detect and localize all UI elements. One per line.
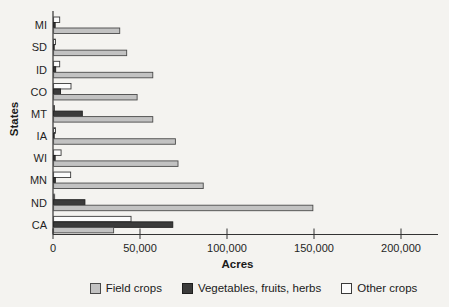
bar-vegetables-fruits-herbs-ia <box>54 133 55 139</box>
bar-vegetables-fruits-herbs-ca <box>54 222 173 228</box>
bar-vegetables-fruits-herbs-sd <box>54 45 55 51</box>
y-axis-tick-label-ia: IA <box>37 130 48 142</box>
legend: Field crops Vegetables, fruits, herbs Ot… <box>0 282 449 294</box>
bar-field-crops-mt <box>54 117 153 123</box>
x-axis-tick-label-0: 0 <box>50 242 56 254</box>
bar-field-crops-co <box>54 94 138 100</box>
bar-field-crops-nd <box>54 205 313 211</box>
x-axis-tick-label-100000: 100,000 <box>207 242 247 254</box>
y-axis-tick-label-nd: ND <box>31 197 47 209</box>
bar-other-crops-sd <box>54 39 56 45</box>
bar-field-crops-id <box>54 72 153 78</box>
y-axis-tick-label-id: ID <box>36 64 47 76</box>
legend-swatch-field-crops-icon <box>90 283 101 294</box>
bar-vegetables-fruits-herbs-mn <box>54 178 56 184</box>
bar-other-crops-mi <box>54 17 60 23</box>
bar-other-crops-nd <box>54 194 55 200</box>
legend-item-field-crops: Field crops <box>90 282 162 294</box>
bar-vegetables-fruits-herbs-mt <box>54 111 83 117</box>
y-axis-tick-label-wi: WI <box>34 152 47 164</box>
bar-vegetables-fruits-herbs-wi <box>54 155 56 161</box>
bar-other-crops-mn <box>54 172 71 178</box>
bar-field-crops-sd <box>54 50 127 56</box>
bar-other-crops-wi <box>54 150 61 156</box>
legend-item-vegetables-fruits-herbs: Vegetables, fruits, herbs <box>182 282 321 294</box>
y-axis-tick-label-ca: CA <box>32 219 48 231</box>
y-axis-tick-label-sd: SD <box>32 41 47 53</box>
bar-field-crops-ia <box>54 139 176 145</box>
y-axis-tick-label-mn: MN <box>30 174 47 186</box>
bar-vegetables-fruits-herbs-co <box>54 89 61 95</box>
bar-other-crops-mt <box>54 106 55 112</box>
y-axis-tick-label-mi: MI <box>35 19 47 31</box>
bar-chart-figure: MISDIDCOMTIAWIMNNDCA050,000100,000150,00… <box>0 0 449 307</box>
x-axis-title: Acres <box>40 258 435 270</box>
y-axis-tick-label-co: CO <box>31 86 48 98</box>
legend-label-vegetables: Vegetables, fruits, herbs <box>198 282 321 294</box>
legend-label-other-crops: Other crops <box>357 282 417 294</box>
bar-other-crops-ia <box>54 128 56 134</box>
y-axis-tick-label-mt: MT <box>31 108 47 120</box>
bar-other-crops-ca <box>54 216 131 222</box>
bar-other-crops-co <box>54 83 71 89</box>
bar-field-crops-wi <box>54 161 178 167</box>
bar-vegetables-fruits-herbs-mi <box>54 23 56 29</box>
legend-swatch-vegetables-icon <box>182 283 193 294</box>
x-axis-tick-label-150000: 150,000 <box>294 242 334 254</box>
bar-field-crops-mn <box>54 183 204 189</box>
bar-vegetables-fruits-herbs-id <box>54 67 56 73</box>
x-axis-tick-label-200000: 200,000 <box>381 242 421 254</box>
bar-other-crops-id <box>54 61 60 67</box>
x-axis-tick-label-50000: 50,000 <box>123 242 157 254</box>
y-axis-title: States <box>8 89 20 149</box>
legend-label-field-crops: Field crops <box>106 282 162 294</box>
legend-item-other-crops: Other crops <box>341 282 417 294</box>
bar-vegetables-fruits-herbs-nd <box>54 200 85 206</box>
bar-field-crops-mi <box>54 28 120 34</box>
legend-swatch-other-crops-icon <box>341 283 352 294</box>
bar-field-crops-ca <box>54 227 114 233</box>
